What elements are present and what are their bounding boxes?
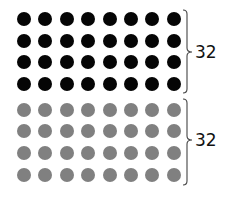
braces — [0, 0, 234, 200]
dot-array-diagram: 32 32 — [0, 0, 234, 200]
gray-group-count-label: 32 — [195, 132, 217, 149]
gray-group-brace — [183, 99, 192, 185]
black-group-brace — [183, 10, 192, 93]
black-group-count-label: 32 — [195, 44, 217, 61]
